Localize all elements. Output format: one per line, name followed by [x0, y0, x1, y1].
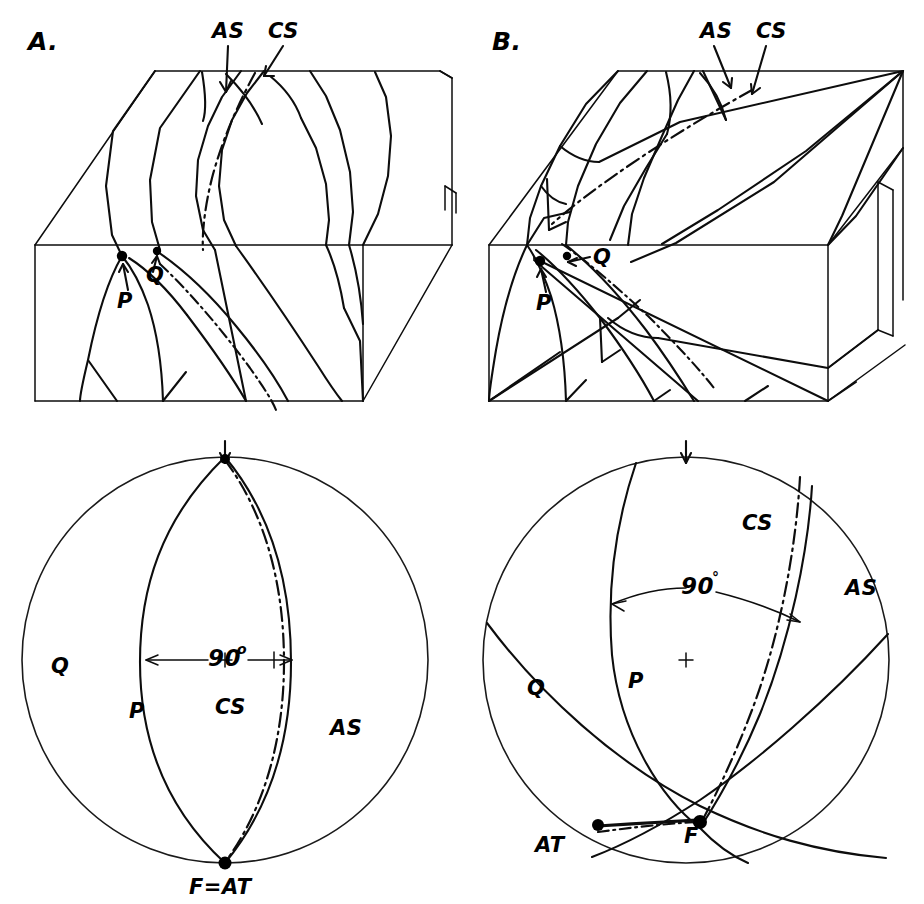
stereonet-b-f-label: F [684, 824, 699, 848]
figure-root: A. AS CS P Q B. AS CS P Q Q P CS AS F=AT… [0, 0, 924, 904]
stereonet-b-as-label: AS [843, 576, 877, 600]
panel-a-label: A. [26, 27, 58, 56]
stereonet-b-at-label: AT [533, 833, 566, 857]
stereonet-a-cs-label: CS [215, 695, 246, 719]
stereonet-a-angle-group: 90 o [208, 641, 247, 671]
block-a-cs-label: CS [268, 19, 299, 43]
block-a-as-label: AS [210, 19, 244, 43]
stereonet-a-degree-symbol: o [237, 641, 247, 657]
stereonet-a-q-label: Q [51, 654, 69, 678]
stereonet-b-angle-group: 90 ° [681, 569, 720, 599]
block-a-q-label: Q [146, 263, 164, 287]
stereonet-b-q-label: Q [527, 676, 545, 700]
stereonet-b-p-label: P [628, 669, 644, 693]
block-b-q-label: Q [593, 245, 611, 269]
stereonet-b-cs-label: CS [742, 511, 773, 535]
panel-b-label: B. [492, 27, 522, 56]
stereonet-a-p-label: P [129, 699, 145, 723]
block-b-p-label: P [536, 291, 552, 315]
stereonet-a-f-at-label: F=AT [189, 875, 253, 899]
stereonet-b-angle-value: 90 [681, 573, 714, 599]
stereonet-a-as-label: AS [328, 716, 362, 740]
stereonet-b-degree-symbol: ° [712, 569, 720, 585]
block-a-p-label: P [117, 289, 133, 313]
labels-layer: A. AS CS P Q B. AS CS P Q Q P CS AS F=AT… [0, 0, 924, 904]
block-b-as-label: AS [698, 19, 732, 43]
block-b-cs-label: CS [756, 19, 787, 43]
